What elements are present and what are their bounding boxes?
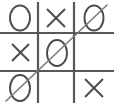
cell-r2c1[interactable] bbox=[0, 33, 38, 71]
tic-tac-toe-board bbox=[0, 0, 114, 110]
cell-r2c2[interactable] bbox=[38, 33, 74, 71]
cell-r1c1[interactable] bbox=[0, 0, 38, 33]
cell-r1c3[interactable] bbox=[74, 0, 114, 33]
cell-r3c2[interactable] bbox=[38, 71, 74, 110]
cell-r3c3[interactable] bbox=[74, 71, 114, 110]
cell-r3c1[interactable] bbox=[0, 71, 38, 110]
cell-r1c2[interactable] bbox=[38, 0, 74, 33]
cell-r2c3[interactable] bbox=[74, 33, 114, 71]
